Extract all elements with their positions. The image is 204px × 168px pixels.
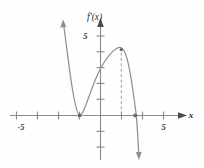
local-minimum-point (78, 114, 82, 118)
derivative-curve-path (64, 24, 139, 152)
local-maximum-point (120, 48, 123, 51)
x-axis-tick-label-5: 5 (161, 122, 166, 132)
y-axis-tick-label-5: 5 (83, 31, 88, 41)
coordinate-plane-svg: f'(x) 5 -5 5 x (0, 0, 204, 168)
x-axis-arrow-icon (178, 112, 187, 119)
x-axis-tick-label-minus5: -5 (17, 122, 25, 132)
curve-upper-arrow-icon (60, 20, 66, 28)
curve-lower-arrow-icon (136, 152, 142, 160)
x-axis-label: x (188, 110, 194, 120)
function-label: f'(x) (87, 12, 102, 23)
zero-crossing-point (133, 113, 137, 117)
graph-figure: f'(x) 5 -5 5 x (0, 0, 204, 168)
